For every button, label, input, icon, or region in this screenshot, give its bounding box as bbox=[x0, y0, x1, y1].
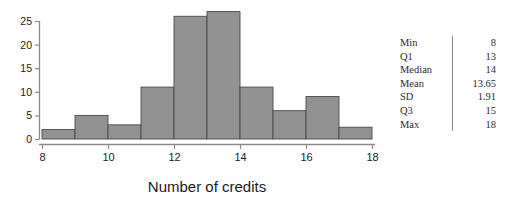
y-axis-tick-label: 20 bbox=[20, 39, 32, 51]
stats-value: 1.91 bbox=[452, 90, 496, 104]
x-axis-tick-label: 14 bbox=[234, 151, 246, 163]
stats-value: 18 bbox=[452, 118, 496, 132]
x-axis-tick-label: 16 bbox=[300, 151, 312, 163]
histogram-bar bbox=[339, 127, 372, 139]
y-axis: 0510152025 bbox=[20, 15, 39, 145]
x-axis-tick-label: 12 bbox=[168, 151, 180, 163]
stats-value: 8 bbox=[452, 36, 496, 50]
y-axis-tick-label: 5 bbox=[26, 109, 32, 121]
x-axis-tick-label: 18 bbox=[366, 151, 378, 163]
stats-value: 14 bbox=[452, 63, 496, 77]
stats-row: Mean13.65 bbox=[400, 77, 496, 91]
stats-value: 13.65 bbox=[452, 77, 496, 91]
y-axis-tick-label: 0 bbox=[26, 133, 32, 145]
stats-row: Median14 bbox=[400, 63, 496, 77]
x-axis: 81012141618 bbox=[39, 145, 379, 164]
summary-statistics-table: Min8Q113Median14Mean13.65SD1.91Q315Max18 bbox=[400, 36, 496, 131]
stats-row: Max18 bbox=[400, 118, 496, 132]
x-axis-tick-label: 10 bbox=[102, 151, 114, 163]
histogram-bar bbox=[141, 87, 174, 139]
stats-label: Median bbox=[400, 63, 452, 77]
histogram-bar bbox=[273, 111, 306, 139]
stats-label: SD bbox=[400, 90, 452, 104]
histogram-bar bbox=[42, 130, 75, 139]
stats-label: Q1 bbox=[400, 50, 452, 64]
x-axis-tick-label: 8 bbox=[39, 151, 45, 163]
stats-label: Mean bbox=[400, 77, 452, 91]
histogram-bar bbox=[306, 97, 339, 139]
stats-value: 13 bbox=[452, 50, 496, 64]
stats-label: Q3 bbox=[400, 104, 452, 118]
histogram-bar bbox=[207, 12, 240, 139]
histogram-bars bbox=[42, 12, 372, 139]
stats-value: 15 bbox=[452, 104, 496, 118]
histogram-figure: 051015202581012141618Number of credits M… bbox=[0, 0, 505, 199]
histogram-bar bbox=[240, 87, 273, 139]
stats-row: Q315 bbox=[400, 104, 496, 118]
summary-statistics-panel: Min8Q113Median14Mean13.65SD1.91Q315Max18 bbox=[400, 36, 496, 131]
stats-row: SD1.91 bbox=[400, 90, 496, 104]
histogram-bar bbox=[75, 115, 108, 139]
stats-row: Q113 bbox=[400, 50, 496, 64]
x-axis-title: Number of credits bbox=[148, 178, 266, 195]
histogram-bar bbox=[174, 16, 207, 139]
stats-row: Min8 bbox=[400, 36, 496, 50]
stats-label: Max bbox=[400, 118, 452, 132]
histogram-bar bbox=[108, 125, 141, 139]
y-axis-tick-label: 10 bbox=[20, 86, 32, 98]
y-axis-tick-label: 25 bbox=[20, 15, 32, 27]
y-axis-tick-label: 15 bbox=[20, 62, 32, 74]
stats-label: Min bbox=[400, 36, 452, 50]
